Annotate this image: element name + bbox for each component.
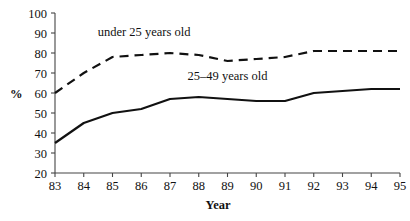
x-tick-label: 87	[164, 179, 177, 193]
x-tick-label: 94	[365, 179, 378, 193]
x-tick-label: 92	[308, 179, 321, 193]
y-tick-label: 100	[28, 7, 47, 21]
x-axis-title: Year	[206, 198, 231, 212]
series-label-1: under 25 years old	[98, 25, 191, 39]
series-label-2: 25–49 years old	[188, 69, 269, 83]
line-chart: 2030405060708090100 83848586878889909192…	[0, 0, 410, 221]
x-tick-label: 91	[279, 179, 292, 193]
y-tick-label: 90	[35, 27, 48, 41]
series-line-2	[55, 89, 400, 143]
x-tick-label: 90	[250, 179, 263, 193]
x-tick-label: 93	[336, 179, 349, 193]
y-tick-label: 60	[35, 87, 48, 101]
x-tick-label: 89	[221, 179, 234, 193]
y-axis-title: %	[10, 87, 23, 101]
x-tick-label: 95	[394, 179, 407, 193]
y-axis-ticks: 2030405060708090100	[28, 7, 55, 181]
y-tick-label: 30	[35, 147, 48, 161]
chart-container: 2030405060708090100 83848586878889909192…	[0, 0, 410, 221]
y-tick-label: 40	[35, 127, 48, 141]
y-tick-label: 50	[35, 107, 48, 121]
x-tick-label: 88	[193, 179, 206, 193]
data-series-group	[55, 51, 400, 143]
x-tick-label: 83	[49, 179, 62, 193]
x-tick-label: 86	[135, 179, 148, 193]
y-tick-label: 80	[35, 47, 48, 61]
x-tick-label: 84	[78, 179, 91, 193]
y-tick-label: 20	[35, 167, 48, 181]
x-axis-ticks: 83848586878889909192939495	[49, 173, 407, 193]
y-tick-label: 70	[35, 67, 48, 81]
x-tick-label: 85	[106, 179, 119, 193]
